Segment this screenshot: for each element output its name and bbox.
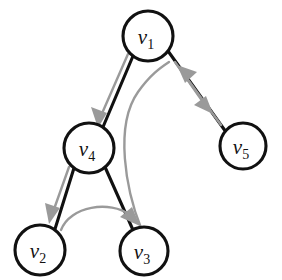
node-circle-v3[interactable] <box>120 227 168 275</box>
node-circle-v1[interactable] <box>123 11 173 61</box>
node-v2[interactable]: v2 <box>15 225 65 275</box>
arrow-shaft-v3-v1 <box>124 62 169 228</box>
node-v3[interactable]: v3 <box>120 227 168 275</box>
node-circle-v2[interactable] <box>15 225 65 275</box>
traversal-arrow-v1-v5 <box>175 62 213 114</box>
node-v5[interactable]: v5 <box>220 123 266 169</box>
node-circle-v5[interactable] <box>220 123 266 169</box>
traversal-arrow-v1-v4 <box>91 54 128 128</box>
traversal-arrow-v3-v1 <box>124 62 169 228</box>
traversal-arrow-v2-v3 <box>61 207 140 230</box>
graph-canvas: v1 v4 v5 v2 <box>0 0 282 280</box>
node-group: v1 v4 v5 v2 <box>15 11 266 275</box>
node-circle-v4[interactable] <box>64 123 114 173</box>
graph-diagram: v1 v4 v5 v2 <box>0 0 282 280</box>
arrow-shaft-v1-v4 <box>100 54 128 118</box>
node-v4[interactable]: v4 <box>64 123 114 173</box>
node-v1[interactable]: v1 <box>123 11 173 61</box>
arrow-head-v1-v5 <box>194 96 213 114</box>
arrow-shaft-v1-v5 <box>175 62 203 102</box>
arrow-shaft-v2-v3 <box>61 207 130 230</box>
